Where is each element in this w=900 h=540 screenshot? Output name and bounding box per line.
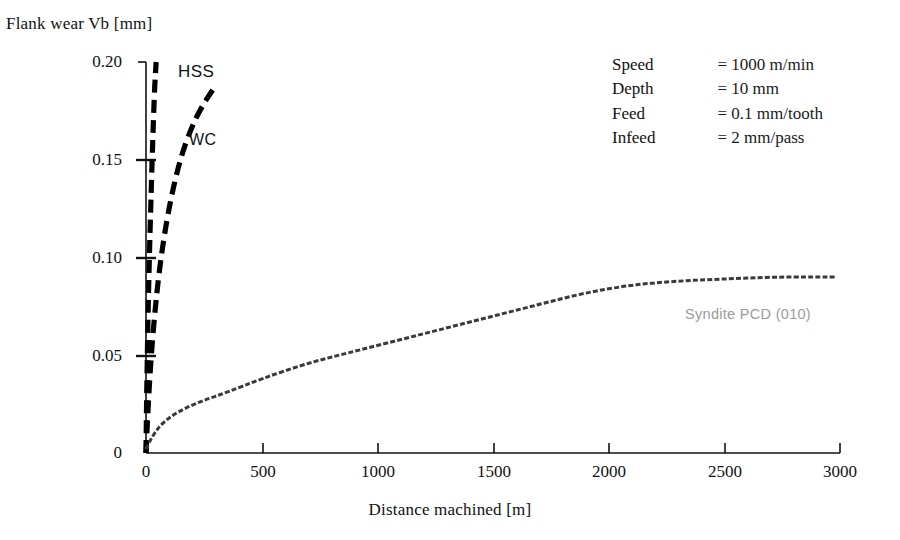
x-axis-title: Distance machined [m] [0,500,900,520]
series-label-wc: WC [189,131,217,149]
x-tick-label-2500: 2500 [685,462,765,482]
parameters-table: Speed= 1000 m/minDepth= 10 mmFeed= 0.1 m… [612,56,823,153]
parameter-name: Speed [612,56,717,80]
parameter-name: Depth [612,80,717,104]
y-tick-label-020: 0.20 [62,52,122,72]
x-tick-label-0: 0 [106,462,186,482]
x-tick-label-1500: 1500 [454,462,534,482]
x-tick-label-3000: 3000 [800,462,880,482]
parameter-name: Infeed [612,129,717,153]
parameter-name: Feed [612,105,717,129]
y-tick-label-010: 0.10 [62,248,122,268]
x-tick-label-2000: 2000 [569,462,649,482]
parameter-value: = 2 mm/pass [717,129,822,153]
series-curve-syndite-pcd-010 [146,277,835,449]
y-tick-label-0: 0 [62,443,122,463]
parameter-value: = 0.1 mm/tooth [717,105,822,129]
series-label-pcd: Syndite PCD (010) [685,306,811,322]
chart-page: Flank wear Vb [mm] 0.20 0.15 0.10 0.05 0… [0,0,900,540]
parameter-row: Feed= 0.1 mm/tooth [612,105,823,129]
y-tick-label-005: 0.05 [62,346,122,366]
y-tick-label-015: 0.15 [62,150,122,170]
x-axis-ticks [263,443,840,453]
parameter-row: Depth= 10 mm [612,80,823,104]
series-label-hss: HSS [178,62,214,82]
parameter-value: = 10 mm [717,80,822,104]
x-tick-label-1000: 1000 [338,462,418,482]
x-tick-label-500: 500 [223,462,303,482]
parameter-row: Infeed= 2 mm/pass [612,129,823,153]
parameter-value: = 1000 m/min [717,56,822,80]
parameter-row: Speed= 1000 m/min [612,56,823,80]
